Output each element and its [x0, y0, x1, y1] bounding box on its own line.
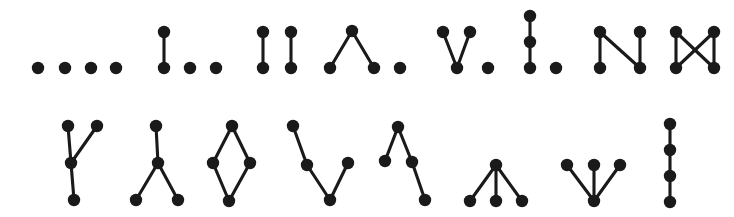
graph-vertex — [91, 120, 103, 132]
graph-vertex — [561, 159, 573, 171]
graph-edge — [158, 163, 178, 200]
graph-vertex — [150, 120, 162, 132]
graph-edge — [600, 32, 640, 68]
graph-vertex — [524, 36, 536, 48]
graph-vertex — [550, 62, 562, 74]
graph-vertex — [257, 26, 269, 38]
graph-vertex — [516, 195, 528, 207]
graph-vertex — [670, 62, 682, 74]
graph-vertex — [287, 120, 299, 132]
graph-vertex — [437, 26, 449, 38]
graph-vertex — [223, 195, 235, 207]
graph-edge — [293, 126, 307, 165]
graph-vertex — [244, 157, 256, 169]
graph-cycle-four-diamond — [207, 120, 256, 207]
graph-vertex — [406, 156, 418, 168]
graph-vertex — [490, 195, 502, 207]
graph-gallery-canvas — [0, 0, 734, 217]
graph-edge — [307, 165, 330, 200]
graph-vertex — [158, 62, 170, 74]
graph-vertical-path-four — [664, 118, 676, 208]
graph-vertex — [226, 120, 238, 132]
graph-path-four-zigzag-left — [287, 120, 354, 206]
graph-vertex — [110, 62, 122, 74]
graph-vertex — [664, 170, 676, 182]
graph-vertex — [210, 62, 222, 74]
graph-gallery-figure — [0, 0, 734, 217]
graph-vertex — [664, 144, 676, 156]
graph-vertex — [614, 159, 626, 171]
graph-vertex — [285, 26, 297, 38]
graph-vertex — [394, 62, 406, 74]
graph-vertex — [524, 10, 536, 22]
graph-edge — [594, 165, 620, 201]
graph-vertex — [324, 194, 336, 206]
graph-vertex — [664, 118, 676, 130]
graph-vertex — [32, 62, 44, 74]
graph-vertex — [634, 62, 646, 74]
graph-vertical-path-three-plus-isolated — [524, 10, 562, 74]
graph-edge — [330, 31, 352, 68]
graph-empty-graph — [32, 62, 122, 74]
graph-vertex — [419, 194, 431, 206]
graph-edge — [213, 126, 232, 163]
graph-vertex — [301, 159, 313, 171]
graph-vertex — [670, 26, 682, 38]
graph-vertex — [392, 121, 404, 133]
graph-vertex — [152, 157, 164, 169]
graph-perfect-matching — [257, 26, 297, 74]
graph-vertex — [342, 157, 354, 169]
graph-path-four-n-shape — [594, 26, 646, 74]
graph-vertex — [708, 62, 720, 74]
graph-vertex — [85, 62, 97, 74]
graph-vertex — [490, 159, 502, 171]
graph-vertex — [59, 62, 71, 74]
graph-vertex — [588, 195, 600, 207]
graph-vertex — [68, 194, 80, 206]
graph-vertex — [285, 62, 297, 74]
graph-edge — [71, 126, 97, 163]
graph-single-edge-plus-two-isolated — [158, 26, 222, 74]
graph-path-three-plus-isolated-peak — [324, 25, 406, 74]
graph-vertex — [634, 26, 646, 38]
graph-vertex — [451, 62, 463, 74]
graph-vertex — [184, 62, 196, 74]
graph-vertex — [482, 62, 494, 74]
graph-vertex — [130, 194, 142, 206]
graph-edge — [229, 163, 250, 201]
graph-cycle-four-bowtie — [670, 26, 720, 74]
graph-vertex — [207, 157, 219, 169]
graph-path-three-plus-isolated-valley — [437, 26, 494, 74]
graph-vertex — [464, 26, 476, 38]
graph-vertex — [664, 196, 676, 208]
graph-star-y-upright — [62, 120, 103, 206]
graph-vertex — [594, 26, 606, 38]
graph-star-three-legs-down — [464, 159, 528, 207]
graph-vertex — [379, 155, 391, 167]
graph-star-y-inverted — [130, 120, 184, 206]
graph-vertex — [324, 62, 336, 74]
graph-edge — [470, 165, 496, 201]
graph-vertex — [464, 195, 476, 207]
graph-vertex — [524, 62, 536, 74]
graph-edge — [136, 163, 158, 200]
graph-star-three-legs-up — [561, 159, 626, 207]
graph-vertex — [257, 62, 269, 74]
graph-edge — [496, 165, 522, 201]
graph-edge — [567, 165, 594, 201]
graph-path-four-zigzag-right — [379, 121, 431, 206]
graph-vertex — [65, 157, 77, 169]
graph-vertex — [158, 26, 170, 38]
graph-edge — [352, 31, 374, 68]
graph-vertex — [346, 25, 358, 37]
graph-vertex — [172, 194, 184, 206]
graph-vertex — [588, 159, 600, 171]
graph-vertex — [708, 26, 720, 38]
graph-vertex — [594, 62, 606, 74]
graph-vertex — [368, 62, 380, 74]
graph-vertex — [62, 120, 74, 132]
